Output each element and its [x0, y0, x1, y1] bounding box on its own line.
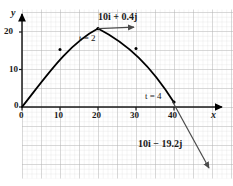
y-axis-label: y — [11, 8, 15, 18]
x-tick-label-0: 0 — [19, 111, 24, 120]
trajectory-diagram-figure: y x 20 10 0 0 10 20 30 40 t = 2 t = 4 10… — [0, 0, 233, 186]
x-tick-label-30: 30 — [130, 111, 139, 120]
velocity-label-t4: 10i − 19.2j — [138, 139, 182, 149]
velocity-label-t2: 10i + 0.4j — [98, 12, 137, 22]
annotation-t-equals-2: t = 2 — [79, 34, 96, 43]
x-tick-label-20: 20 — [92, 111, 101, 120]
x-axis-label: x — [211, 110, 216, 120]
grid-background — [0, 10, 233, 179]
annotation-t-equals-4: t = 4 — [145, 92, 162, 101]
x-tick-label-10: 10 — [54, 111, 63, 120]
plot-canvas — [0, 0, 233, 186]
y-tick-label-0: 0 — [14, 101, 19, 110]
x-tick-label-40: 40 — [168, 111, 177, 120]
y-tick-label-10: 10 — [9, 65, 18, 74]
y-tick-label-20: 20 — [4, 27, 13, 36]
